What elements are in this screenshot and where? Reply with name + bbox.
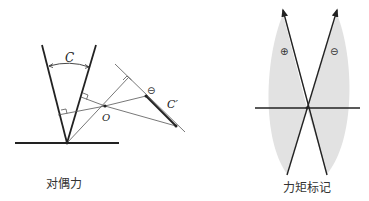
couple-result-label: C′ [167, 98, 178, 111]
angle-label: C [65, 51, 74, 65]
minus-circle-icon: ⊖ [147, 85, 155, 96]
caption-couple: 对偶力 [46, 174, 82, 191]
couple-figure: C O C′ ⊖ [15, 45, 185, 144]
perp-o-right [81, 97, 105, 106]
shaded-region [268, 14, 307, 174]
point-c2 [175, 125, 178, 128]
point-o [103, 104, 106, 107]
line-o-to-c1 [105, 96, 146, 106]
plus-circle-icon: ⊕ [280, 46, 288, 57]
right-angle-mark [123, 76, 132, 80]
minus-circle-icon: ⊖ [330, 46, 338, 57]
caption-moment-sign: 力矩标记 [283, 178, 331, 195]
point-o-label: O [102, 112, 110, 123]
apex-point [66, 142, 69, 145]
force-line-left [42, 45, 67, 143]
crossing-point [306, 107, 309, 110]
right-angle-mark [61, 109, 67, 114]
moment-sign-figure: ⊕ ⊖ [255, 10, 360, 175]
diagram-canvas: C O C′ ⊖ ⊕ ⊖ [0, 0, 369, 201]
